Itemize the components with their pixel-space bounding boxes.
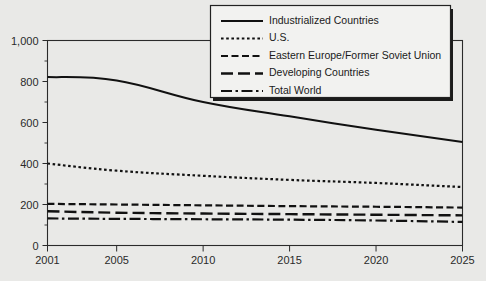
x-tick-label: 2010 bbox=[191, 254, 215, 266]
x-tick-label: 2020 bbox=[364, 254, 388, 266]
legend-label-4: Total World bbox=[269, 84, 321, 96]
x-tick-label: 2005 bbox=[104, 254, 128, 266]
legend: Industrialized CountriesU.S.Eastern Euro… bbox=[211, 6, 454, 102]
legend-label-0: Industrialized Countries bbox=[269, 14, 379, 26]
y-tick-label: 0 bbox=[32, 240, 38, 252]
y-tick-label: 800 bbox=[20, 76, 38, 88]
legend-label-1: U.S. bbox=[269, 31, 289, 43]
x-tick-label: 2001 bbox=[35, 254, 59, 266]
chart-svg: 02004006008001,000 200120052010201520202… bbox=[0, 0, 486, 281]
line-chart: 02004006008001,000 200120052010201520202… bbox=[0, 0, 486, 281]
y-tick-label: 600 bbox=[20, 117, 38, 129]
legend-label-3: Developing Countries bbox=[269, 66, 369, 78]
x-tick-label: 2015 bbox=[277, 254, 301, 266]
y-tick-label: 1,000 bbox=[11, 35, 39, 47]
x-tick-label: 2025 bbox=[450, 254, 474, 266]
legend-label-2: Eastern Europe/Former Soviet Union bbox=[269, 49, 441, 61]
y-tick-label: 200 bbox=[20, 199, 38, 211]
y-tick-label: 400 bbox=[20, 158, 38, 170]
